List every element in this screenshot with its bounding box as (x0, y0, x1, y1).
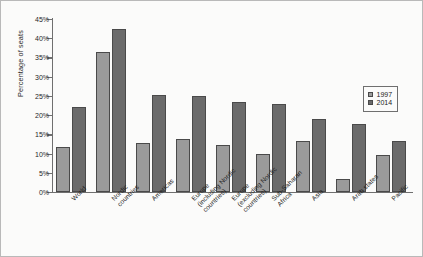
bar-group (52, 19, 92, 192)
bar-1997 (336, 179, 351, 192)
bar-group (172, 19, 212, 192)
y-tick-label: 40% (35, 35, 49, 42)
y-tick-label: 20% (35, 112, 49, 119)
y-tick-label: 45% (35, 16, 49, 23)
y-tick-label: 30% (35, 73, 49, 80)
bar-1997 (96, 52, 111, 192)
y-tick-label: 15% (35, 131, 49, 138)
chart-legend: 19972014 (363, 86, 398, 112)
bar-2014 (312, 119, 327, 192)
legend-label: 1997 (377, 91, 393, 98)
bar-2014 (152, 95, 167, 192)
bar-2014 (72, 107, 87, 192)
bar-1997 (56, 147, 71, 192)
bar-1997 (376, 155, 391, 192)
bar-group (132, 19, 172, 192)
legend-swatch-icon (368, 100, 373, 105)
bar-group (92, 19, 132, 192)
bar-2014 (192, 96, 207, 192)
legend-item[interactable]: 1997 (368, 91, 392, 98)
y-tick-label: 0% (39, 189, 49, 196)
bar-group (292, 19, 332, 192)
bar-1997 (176, 139, 191, 192)
y-tick-label: 25% (35, 92, 49, 99)
y-tick-label: 10% (35, 150, 49, 157)
y-tick-label: 5% (39, 169, 49, 176)
y-axis-title: Percentage of seats (16, 0, 25, 129)
chart-figure: Percentage of seats 0%5%10%15%20%25%30%3… (0, 0, 423, 257)
bar-2014 (112, 29, 127, 192)
legend-label: 2014 (377, 99, 393, 106)
legend-swatch-icon (368, 92, 373, 97)
legend-item[interactable]: 2014 (368, 99, 392, 106)
y-tick-label: 35% (35, 54, 49, 61)
